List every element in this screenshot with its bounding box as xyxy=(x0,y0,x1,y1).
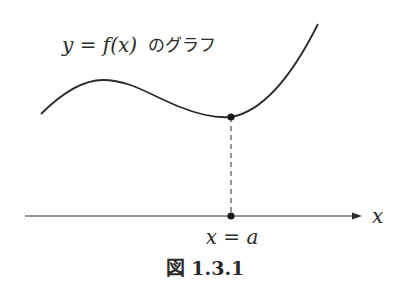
graph-label-math: y = f(x) xyxy=(61,33,137,57)
figure-canvas: y = f(x) のグラフ x x = a 図 1.3.1 xyxy=(0,0,406,293)
figure-caption: 図 1.3.1 xyxy=(166,257,245,279)
x-axis-arrow-icon xyxy=(352,213,362,220)
axis-point xyxy=(227,212,234,219)
point-label: x = a xyxy=(206,225,259,249)
graph-label-jp: のグラフ xyxy=(148,35,216,55)
axis-label-x: x xyxy=(372,204,383,228)
curve-point xyxy=(227,113,234,120)
